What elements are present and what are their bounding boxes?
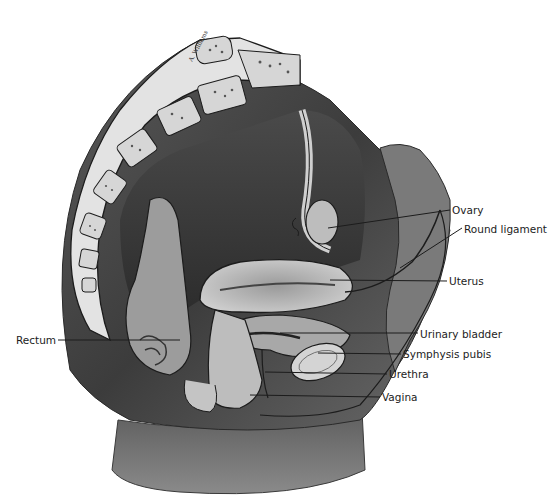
- pelvis-sagittal-illustration: A. Williams: [0, 0, 554, 500]
- uterus-organ: [200, 260, 352, 313]
- label-ovary: Ovary: [452, 204, 483, 216]
- label-rectum: Rectum: [16, 334, 56, 346]
- label-urethra: Urethra: [389, 368, 429, 380]
- label-uterus: Uterus: [449, 275, 484, 287]
- ovary-organ: [306, 200, 338, 244]
- label-urinary-bladder: Urinary bladder: [420, 328, 502, 340]
- label-symphysis-pubis: Symphysis pubis: [403, 348, 491, 360]
- label-vagina: Vagina: [382, 391, 417, 403]
- label-round-ligament: Round ligament: [464, 223, 547, 235]
